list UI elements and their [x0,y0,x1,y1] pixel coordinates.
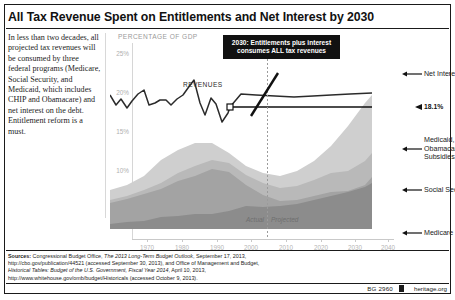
x-tick-1980 [182,239,183,242]
crossover-value-label: 18.1% [424,103,443,110]
title-divider [6,28,449,29]
leader-arrow-icon [402,229,424,237]
crossover-value-text: 18.1% [424,103,443,110]
label-medicaid-text: Medicaid, Obamacare Subsidies, CHIP [424,136,455,161]
sources-line-2: http://cbo.gov/publication/44521 (access… [8,260,338,267]
sources-line1-title: The 2013 Long-Term Budget Outlook [104,253,193,259]
report-id: BG 2960 [367,285,393,292]
page-top-edge [0,0,455,3]
bottom-divider [6,283,449,284]
label-net-interest: Net Interest [424,70,455,79]
label-medicaid: Medicaid, Obamacare Subsidies, CHIP [424,136,455,162]
left-caret-icon [415,104,423,110]
x-tick-2000 [251,239,252,242]
sources-label: Sources: [8,253,31,259]
revenues-series-label: REVENUES [183,81,222,88]
chart-area: PERCENTAGE OF GDP 25% 20% 15% 10% 5% [110,33,445,238]
brand-label: heritage.org [414,285,447,292]
label-medicare-text: Medicare [424,229,453,237]
label-social-security: Social Security [424,186,455,195]
sources-line1-b: , September 17, 2013, [193,253,246,259]
x-tick-1990 [217,239,218,242]
infographic-page: All Tax Revenue Spent on Entitlements an… [0,0,455,300]
blurb-divider [105,33,106,218]
leader-arrow-icon [402,145,424,153]
footer-divider [6,250,449,251]
revenues-line [110,80,372,122]
page-title: All Tax Revenue Spent on Entitlements an… [8,8,428,26]
sources-line3-b: , April 10, 2013, [169,267,206,273]
sources-line-4: http://www.whitehouse.gov/omb/budget/His… [8,275,338,282]
sources-line-1: Sources: Congressional Budget Office, Th… [8,253,338,260]
x-tick-2040 [388,239,389,242]
actual-projected-divider [267,43,268,239]
sources-block: Sources: Congressional Budget Office, Th… [8,253,338,282]
crossover-marker [227,104,233,110]
callout-box: 2030: Entitlements plus interest consume… [223,35,340,59]
x-tick-2030 [355,239,356,242]
leader-arrow-icon [402,186,424,194]
callout-text: 2030: Entitlements plus interest consume… [228,39,335,55]
stack-svg [110,33,372,229]
label-social-security-text: Social Security [424,186,455,194]
x-tick-2020 [321,239,322,242]
stacked-area-plot [110,33,372,229]
summary-text: In less than two decades, all projected … [8,33,101,137]
x-tick-1970 [147,239,148,242]
series-labels: Net Interest 18.1% Medicaid, Obamacare S… [398,43,455,243]
label-net-interest-text: Net Interest [424,70,455,78]
leader-arrow-icon [402,70,424,78]
heritage-logo-icon [399,285,404,292]
actual-label: Actual [246,216,264,223]
sources-line3-title: Historical Tables: Budget of the U.S. Go… [8,267,169,273]
x-tick-2010 [286,239,287,242]
sources-line1-a: Congressional Budget Office, [31,253,104,259]
sources-line-3: Historical Tables: Budget of the U.S. Go… [8,267,338,274]
projected-label: Projected [271,216,298,223]
label-medicare: Medicare [424,229,455,238]
